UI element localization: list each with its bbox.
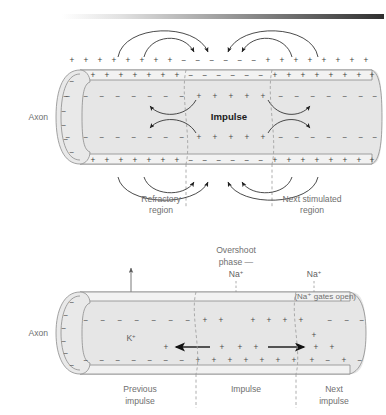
svg-text:+: + xyxy=(244,356,249,365)
svg-text:+: + xyxy=(315,71,320,80)
svg-text:+: + xyxy=(299,316,304,325)
svg-text:−: − xyxy=(245,71,250,80)
svg-text:+: + xyxy=(314,343,319,352)
svg-text:−: − xyxy=(238,56,243,65)
svg-text:+: + xyxy=(330,343,335,352)
svg-text:−: − xyxy=(327,92,332,101)
svg-text:+: + xyxy=(245,92,250,101)
svg-text:+: + xyxy=(343,71,348,80)
svg-text:+: + xyxy=(133,71,138,80)
svg-text:−: − xyxy=(70,77,75,86)
svg-text:+: + xyxy=(197,133,202,142)
figure-canvas: ++ ++ ++ ++ −− −− −− ++ ++ ++ ++ xyxy=(0,0,386,415)
next-stimulated-region-caption-line2: region xyxy=(300,205,324,215)
svg-text:+: + xyxy=(329,71,334,80)
svg-text:+: + xyxy=(273,71,278,80)
svg-text:−: − xyxy=(186,316,191,325)
svg-text:+: + xyxy=(203,316,208,325)
svg-text:+: + xyxy=(357,71,362,80)
svg-text:+: + xyxy=(220,343,225,352)
svg-text:−: − xyxy=(343,133,348,142)
svg-text:+: + xyxy=(283,316,288,325)
previous-impulse-caption-line1: Previous xyxy=(123,384,156,394)
svg-text:+: + xyxy=(212,356,217,365)
svg-text:+: + xyxy=(119,156,124,165)
svg-text:+: + xyxy=(161,156,166,165)
svg-text:+: + xyxy=(261,92,266,101)
svg-text:+: + xyxy=(315,156,320,165)
svg-text:−: − xyxy=(245,156,250,165)
svg-text:−: − xyxy=(70,298,75,307)
svg-text:+: + xyxy=(70,56,75,65)
next-impulse-caption-line2: impulse xyxy=(319,396,349,406)
svg-text:+: + xyxy=(350,56,355,65)
next-stimulated-region-caption-line1: Next stimulated xyxy=(282,194,341,204)
refractory-region-caption-line1: Refractory xyxy=(141,194,181,204)
svg-text:−: − xyxy=(84,92,89,101)
right-sodium-ion-label: Na+ xyxy=(307,269,322,279)
svg-text:−: − xyxy=(373,133,378,142)
svg-text:−: − xyxy=(164,356,169,365)
svg-text:+: + xyxy=(251,316,256,325)
extra-positive-charge: + xyxy=(312,331,317,340)
svg-text:−: − xyxy=(180,356,185,365)
svg-text:+: + xyxy=(98,56,103,65)
svg-text:−: − xyxy=(345,316,350,325)
svg-text:−: − xyxy=(328,316,333,325)
membrane-charges-bottom-row: ++ ++ ++ +− −− −− −+ ++ ++ ++ + xyxy=(91,156,375,165)
axon-label-bottom: Axon xyxy=(28,328,48,338)
svg-text:−: − xyxy=(231,156,236,165)
svg-text:−: − xyxy=(252,56,257,65)
svg-text:−: − xyxy=(64,92,69,101)
nerve-impulse-figure: ++ ++ ++ ++ −− −− −− ++ ++ ++ ++ xyxy=(0,0,386,415)
svg-text:+: + xyxy=(168,56,173,65)
svg-text:+: + xyxy=(197,92,202,101)
axon-label-top: Axon xyxy=(28,112,48,122)
svg-text:+: + xyxy=(370,71,375,80)
svg-text:−: − xyxy=(62,337,67,346)
svg-text:−: − xyxy=(217,156,222,165)
svg-text:+: + xyxy=(267,316,272,325)
svg-text:+: + xyxy=(213,133,218,142)
svg-text:+: + xyxy=(357,156,362,165)
svg-text:−: − xyxy=(64,349,69,358)
svg-text:+: + xyxy=(175,156,180,165)
svg-text:+: + xyxy=(164,343,169,352)
svg-text:−: − xyxy=(132,92,137,101)
svg-text:−: − xyxy=(259,71,264,80)
svg-text:+: + xyxy=(261,133,266,142)
svg-text:+: + xyxy=(308,56,313,65)
svg-text:−: − xyxy=(148,133,153,142)
svg-text:+: + xyxy=(301,156,306,165)
svg-text:−: − xyxy=(164,92,169,101)
svg-text:−: − xyxy=(116,356,121,365)
svg-text:−: − xyxy=(295,92,300,101)
svg-text:−: − xyxy=(182,56,187,65)
svg-text:−: − xyxy=(217,71,222,80)
svg-text:+: + xyxy=(245,133,250,142)
svg-text:−: − xyxy=(70,148,75,157)
svg-text:−: − xyxy=(148,356,153,365)
svg-text:−: − xyxy=(360,316,365,325)
svg-text:−: − xyxy=(295,133,300,142)
top-gradient-bar xyxy=(62,14,384,19)
svg-text:+: + xyxy=(238,343,243,352)
svg-text:+: + xyxy=(364,56,369,65)
svg-text:−: − xyxy=(359,133,364,142)
svg-text:+: + xyxy=(219,316,224,325)
svg-text:−: − xyxy=(279,92,284,101)
svg-text:−: − xyxy=(64,135,69,144)
svg-text:−: − xyxy=(148,92,153,101)
svg-text:−: − xyxy=(84,316,89,325)
svg-text:+: + xyxy=(105,156,110,165)
svg-text:+: + xyxy=(140,56,145,65)
svg-text:+: + xyxy=(105,71,110,80)
svg-text:+: + xyxy=(287,71,292,80)
svg-text:−: − xyxy=(189,71,194,80)
svg-text:−: − xyxy=(101,316,106,325)
svg-text:−: − xyxy=(180,133,185,142)
svg-text:+: + xyxy=(228,356,233,365)
svg-text:+: + xyxy=(336,56,341,65)
svg-text:−: − xyxy=(279,133,284,142)
svg-text:−: − xyxy=(327,133,332,142)
